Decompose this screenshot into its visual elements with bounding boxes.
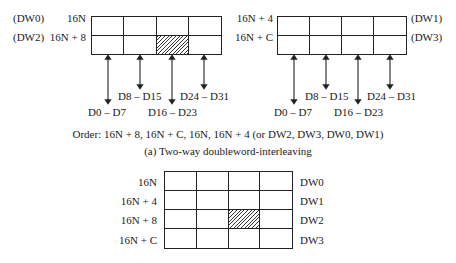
dw2-label: DW2: [300, 214, 324, 226]
grid-cell: [165, 172, 197, 191]
bus-label-d16-d23: D16 – D23: [334, 106, 383, 118]
grid-cell: [197, 191, 229, 210]
address-16n4-label: 16N + 4: [100, 195, 157, 207]
grid-cell: [229, 191, 261, 210]
bus-label-d8-d15: D8 – D15: [305, 90, 348, 102]
grid-cell: [197, 229, 229, 248]
grid-cell: [229, 229, 261, 248]
grid-cell: [229, 172, 261, 191]
hatched-cell: [229, 210, 261, 229]
access-order-text: Order: 16N + 8, 16N + C, 16N, 16N + 4 (o…: [0, 128, 456, 140]
bus-label-d16-d23: D16 – D23: [148, 106, 197, 118]
bus-label-d8-d15: D8 – D15: [118, 90, 161, 102]
grid-cell: [260, 229, 292, 248]
bus-label-d0-d7: D0 – D7: [88, 106, 126, 118]
dw1-label: DW1: [300, 195, 324, 207]
single-bank-grid: [164, 171, 293, 249]
bus-label-d0-d7: D0 – D7: [274, 106, 312, 118]
data-bus-arrows: [0, 0, 456, 130]
grid-cell: [260, 172, 292, 191]
grid-cell: [165, 210, 197, 229]
grid-cell: [165, 191, 197, 210]
dw0-label: DW0: [300, 176, 324, 188]
address-16nc-label: 16N + C: [100, 234, 157, 246]
dw3-label: DW3: [300, 234, 324, 246]
grid-cell: [260, 210, 292, 229]
address-16n8-label: 16N + 8: [100, 214, 157, 226]
grid-cell: [260, 191, 292, 210]
address-16n-label: 16N: [100, 176, 157, 188]
grid-cell: [197, 210, 229, 229]
figure-caption-a: (a) Two-way doubleword-interleaving: [0, 145, 456, 157]
grid-cell: [197, 172, 229, 191]
grid-cell: [165, 229, 197, 248]
bus-label-d24-d31: D24 – D31: [180, 90, 229, 102]
bus-label-d24-d31: D24 – D31: [367, 90, 416, 102]
